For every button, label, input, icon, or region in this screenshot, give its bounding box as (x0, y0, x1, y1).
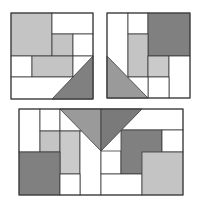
panel-bottom (19, 109, 183, 195)
white-cell-mid-left (11, 56, 32, 77)
white-cell-top (128, 13, 148, 34)
white-cell-bottom-mid (148, 77, 169, 98)
wide-light-rect (32, 56, 73, 77)
white-cell-bottom-b (101, 174, 142, 195)
white-cell-mid-right (73, 34, 93, 56)
white-cell-top-right (52, 13, 93, 34)
large-dark-square (19, 152, 60, 195)
white-cell-right (169, 56, 190, 98)
small-light-square (52, 34, 73, 56)
dark-square (148, 13, 190, 56)
panel-top-right (107, 13, 190, 98)
large-light-square (11, 13, 52, 56)
tall-lighter-rect (60, 131, 80, 174)
tall-light-rect (128, 34, 148, 77)
white-tall-left (19, 109, 40, 152)
tangram-diagram (0, 0, 199, 206)
small-light-square (40, 131, 60, 152)
large-light-square (142, 152, 183, 195)
white-cell-top-a (40, 109, 60, 131)
white-cell-center-right (101, 151, 121, 174)
small-lighter-square (148, 56, 169, 77)
white-cell-bottom-a (60, 174, 80, 195)
panel-top-left (11, 13, 93, 99)
white-cell-right-top (162, 130, 183, 152)
